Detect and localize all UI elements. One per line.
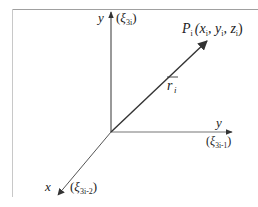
coordinate-diagram: y (ξ3i) Pi(xi, yi, zi) r i y (ξ3i-1) x (…	[0, 0, 258, 207]
svg-text:r: r	[167, 78, 173, 93]
vector-label: r i	[167, 77, 178, 95]
position-vector	[111, 41, 207, 132]
horizontal-axis-alias: (ξ3i-1)	[206, 134, 231, 150]
vertical-axis-label: y	[96, 10, 104, 25]
point-label: Pi(xi, yi, zi)	[181, 21, 243, 38]
diagonal-axis-alias: (ξ3i-2)	[70, 179, 97, 196]
svg-text:i: i	[174, 85, 177, 95]
diagonal-axis-label: x	[44, 179, 51, 194]
vertical-axis-alias: (ξ3i)	[116, 10, 137, 27]
horizontal-axis-label: y	[214, 115, 222, 130]
diagonal-axis	[58, 132, 111, 195]
